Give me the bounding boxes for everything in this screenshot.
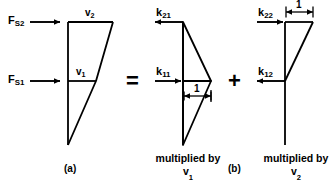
force-label-fs2: FS2 <box>8 15 24 26</box>
force-label-fs1: FS1 <box>8 74 24 85</box>
term-2-hypotenuse <box>285 22 313 81</box>
displacement-label-v1: v1 <box>76 67 86 77</box>
displacement-label-v1-base: v <box>76 66 82 77</box>
displacement-label-v2-base: v <box>85 7 91 18</box>
multiplier-caption-term2-symbol: v2 <box>291 165 301 177</box>
force-label-fs2-base: F <box>8 14 15 26</box>
force-label-fs1-sub: S1 <box>15 78 25 87</box>
multiplier-term1-base: v <box>183 165 189 177</box>
unit-dimension-label-term2: 1 <box>296 0 302 10</box>
stiffness-label-k12: k12 <box>258 66 273 77</box>
term-2-dim-arrow-left <box>286 9 292 15</box>
term-1-graphics <box>155 22 211 145</box>
stiffness-label-k11: k11 <box>156 66 170 77</box>
stiffness-label-k12-sub: 12 <box>264 70 273 79</box>
displacement-label-v2: v2 <box>85 8 95 18</box>
stiffness-label-k21-sub: 21 <box>162 11 171 20</box>
displacement-label-v2-sub: 2 <box>91 11 95 20</box>
panel-a-deflection-curve <box>68 22 113 145</box>
multiplier-term2-sub: 2 <box>297 173 301 182</box>
multiplier-term1-sub: 1 <box>189 173 193 182</box>
multiplier-term2-base: v <box>291 165 297 177</box>
equals-sign: = <box>126 70 139 92</box>
multiplier-caption-term1-text: multiplied by <box>156 152 221 164</box>
force-label-fs1-base: F <box>8 73 15 85</box>
force-label-fs2-sub: S2 <box>15 19 25 28</box>
multiplier-caption-term2-text: multiplied by <box>264 152 329 164</box>
stiffness-superposition-figure: FS2 FS1 v2 v1 = k21 k11 1 + k22 k12 1 (a… <box>0 0 330 189</box>
term-2-dim-arrow-right <box>307 9 313 15</box>
term-1-upper-triangle <box>183 22 211 81</box>
multiplier-caption-term2: multiplied by v2 <box>248 152 330 181</box>
stiffness-label-k22: k22 <box>258 7 273 18</box>
unit-dimension-label-term1: 1 <box>194 84 200 94</box>
plus-sign: + <box>228 70 241 92</box>
stiffness-label-k21: k21 <box>156 7 171 18</box>
caption-panel-a: (a) <box>64 164 76 174</box>
term-1-dim-arrow-right <box>205 93 211 99</box>
displacement-label-v1-sub: 1 <box>82 70 86 79</box>
stiffness-label-k22-sub: 22 <box>264 11 273 20</box>
multiplier-caption-term1: multiplied by v1 <box>140 152 236 181</box>
panel-a-graphics <box>30 22 113 145</box>
stiffness-label-k11-sub: 11 <box>162 70 170 79</box>
term-1-dim-arrow-left <box>184 93 190 99</box>
multiplier-caption-term1-symbol: v1 <box>183 165 193 177</box>
